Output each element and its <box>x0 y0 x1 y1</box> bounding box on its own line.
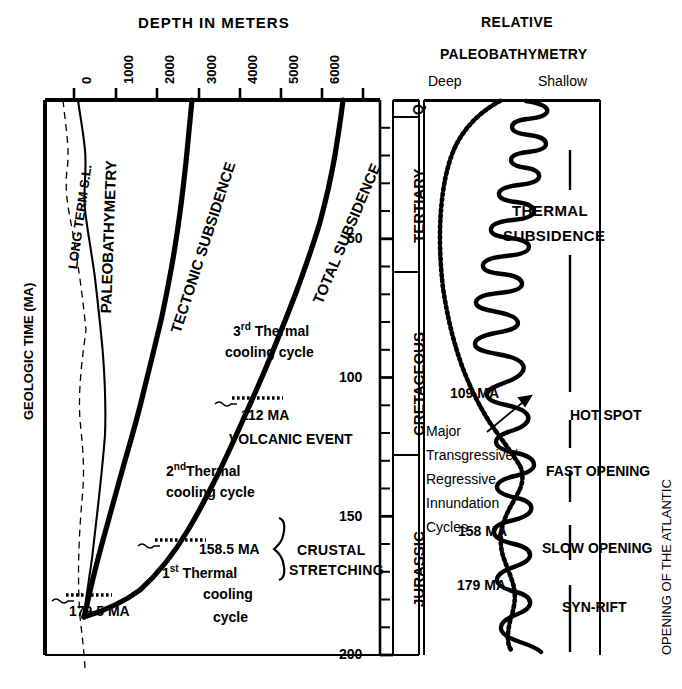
geologic-time-axis-label: GEOLOGIC TIME (MA) <box>22 283 35 420</box>
paleobathymetry-panel-title: PALEOBATHYMETRY <box>440 47 587 61</box>
annotation-crustal: CRUSTAL <box>297 543 366 557</box>
annotation-thermal: THERMAL <box>512 203 588 218</box>
annotation-major: Major <box>426 424 461 438</box>
period-label-quaternary: Q <box>411 104 425 115</box>
depth-axis-ticks <box>74 88 363 100</box>
ordinal-1: 1 <box>162 565 170 581</box>
annotation-subsidence: SUBSIDENCE <box>503 228 605 243</box>
annotation-opening-of-the-atlantic: OPENING OF THE ATLANTIC <box>660 479 673 655</box>
annotation-volcanic-event: VOLCANIC EVENT <box>229 432 353 446</box>
ordinal-2-suffix: nd <box>174 461 186 472</box>
annotation-3rd-thermal: 3rd Thermal <box>233 322 309 338</box>
annotation-3rd-cooling-cycle: cooling cycle <box>225 345 314 359</box>
annotation-179ma: 179 MA <box>457 578 506 592</box>
depth-tick-3000: 3000 <box>205 55 218 84</box>
depth-tick-4000: 4000 <box>246 55 259 84</box>
annotation-158-5ma: 158.5 MA <box>199 542 260 556</box>
annotation-2nd-cooling-cycle: cooling cycle <box>166 485 255 499</box>
crustal-stretching-brace <box>274 518 284 580</box>
annotation-158ma: 158 MA <box>458 524 507 538</box>
period-label-cretaceous: CRETACEOUS <box>411 332 426 436</box>
annotation-1st-thermal-text: Thermal <box>179 565 237 581</box>
time-tick-150: 150 <box>339 509 362 523</box>
ordinal-3-suffix: rd <box>241 321 251 332</box>
relative-title: RELATIVE <box>481 15 553 29</box>
annotation-hot-spot: HOT SPOT <box>570 408 642 422</box>
depth-tick-0: 0 <box>80 77 93 84</box>
annotation-transgressive: Transgressive/ <box>426 448 517 462</box>
annotation-innundation: Innundation <box>426 496 499 510</box>
paleobathymetry-curve <box>475 101 547 652</box>
figure-canvas: DEPTH IN METERS RELATIVE PALEOBATHYMETRY… <box>0 0 682 689</box>
depth-tick-5000: 5000 <box>287 55 300 84</box>
annotation-2nd-thermal-text: Thermal <box>186 463 240 479</box>
depth-tick-6000: 6000 <box>328 55 341 84</box>
figure-svg <box>0 0 682 689</box>
annotation-1st-cycle: cycle <box>213 610 248 624</box>
ordinal-1-suffix: st <box>170 563 179 574</box>
ordinal-3: 3 <box>233 323 241 339</box>
period-label-jurassic: JURASSIC <box>411 531 426 607</box>
annotation-slow-opening: SLOW OPENING <box>542 541 652 555</box>
annotation-regressive: Regressive <box>426 472 496 486</box>
annotation-112ma: 112 MA <box>241 408 289 422</box>
annotation-1st-thermal: 1st Thermal <box>162 564 237 580</box>
annotation-109ma: 109 MA <box>450 386 499 400</box>
annotation-fast-opening: FAST OPENING <box>546 464 650 478</box>
annotation-stretching: STRETCHING <box>289 563 384 577</box>
annotation-179-5ma: 179.5 MA <box>69 604 130 618</box>
annotation-3rd-thermal-text: Thermal <box>251 323 309 339</box>
ordinal-2: 2 <box>166 463 174 479</box>
annotation-2nd-thermal: 2ndThermal <box>166 462 240 478</box>
depth-tick-1000: 1000 <box>122 55 135 84</box>
depth-in-meters-title: DEPTH IN METERS <box>138 15 290 30</box>
shallow-label: Shallow <box>538 74 587 88</box>
annotation-1st-cooling: cooling <box>203 587 253 601</box>
annotation-syn-rift: SYN-RIFT <box>562 600 627 614</box>
time-tick-100: 100 <box>339 370 362 384</box>
time-tick-200: 200 <box>339 647 362 661</box>
period-label-tertiary: TERTIARY <box>411 169 426 243</box>
deep-label: Deep <box>428 74 461 88</box>
depth-tick-2000: 2000 <box>163 55 176 84</box>
